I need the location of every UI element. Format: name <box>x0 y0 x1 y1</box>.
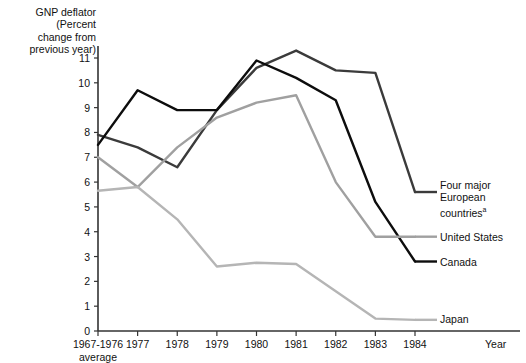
y-tick-label: 7 <box>64 151 90 163</box>
series-label-1: Canada <box>440 256 477 268</box>
y-tick-label: 9 <box>64 102 90 114</box>
footnote-marker: a <box>483 206 487 213</box>
x-tick-label: 1967-1976 <box>73 338 123 350</box>
x-tick-sublabel: average <box>79 351 117 363</box>
x-tick-label: 1981 <box>284 338 307 350</box>
series-line-1 <box>98 60 415 261</box>
series-label-2: United States <box>440 231 503 243</box>
y-tick-label: 4 <box>64 226 90 238</box>
series-label-3: Japan <box>440 313 469 325</box>
y-tick-label: 5 <box>64 201 90 213</box>
x-tick-label: 1982 <box>324 338 347 350</box>
y-tick-label: 8 <box>64 126 90 138</box>
x-axis-title: Year <box>485 338 506 350</box>
x-tick-label: 1979 <box>205 338 228 350</box>
series-line-3 <box>98 187 415 320</box>
y-tick-label: 11 <box>64 52 90 64</box>
x-tick-label: 1980 <box>245 338 268 350</box>
y-tick-label: 10 <box>64 77 90 89</box>
x-tick-label: 1977 <box>126 338 149 350</box>
x-tick-label: 1983 <box>364 338 387 350</box>
y-tick-label: 6 <box>64 176 90 188</box>
y-tick-label: 1 <box>64 300 90 312</box>
y-tick-label: 3 <box>64 251 90 263</box>
series-line-0 <box>98 51 415 192</box>
y-tick-label: 0 <box>64 325 90 337</box>
x-tick-label: 1984 <box>403 338 426 350</box>
series-line-2 <box>98 95 415 236</box>
x-tick-label: 1978 <box>166 338 189 350</box>
y-tick-label: 2 <box>64 275 90 287</box>
series-label-0: Four major European countriesa <box>440 179 491 219</box>
